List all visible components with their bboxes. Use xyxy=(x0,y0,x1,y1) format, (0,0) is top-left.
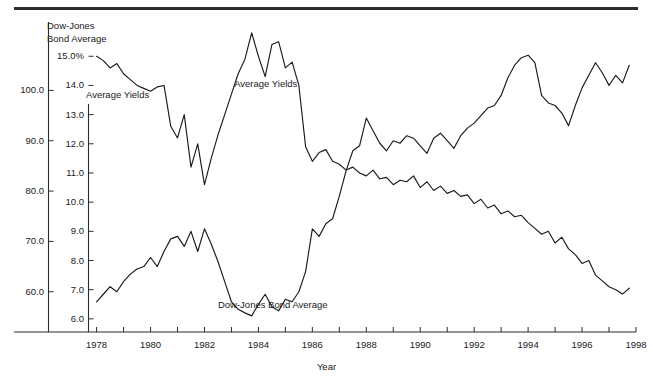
inner-y-tick-label: 9.0 xyxy=(40,225,84,237)
x-tick-label: 1998 xyxy=(616,339,653,350)
chart-annotation-average-yields: Average Yields xyxy=(234,78,297,89)
outer-y-tick-label: 70.0 xyxy=(0,235,44,247)
inner-y-tick-label: 11.0 xyxy=(40,167,84,179)
inner-y-tick-label: 12.0 xyxy=(40,138,84,150)
x-tick-label: 1980 xyxy=(131,339,171,350)
x-tick-label: 1982 xyxy=(184,339,224,350)
chart-annotation-dow-jones-bond-average: Dow-Jones Bond Average xyxy=(218,299,328,310)
outer-y-tick-label: 100.0 xyxy=(0,84,44,96)
inner-y-tick-label: 7.0 xyxy=(40,284,84,296)
series-line-average-yields xyxy=(97,33,630,294)
x-tick-label: 1992 xyxy=(454,339,494,350)
outer-y-tick-label: 60.0 xyxy=(0,286,44,298)
series-line-dow-jones-bond-average xyxy=(97,55,630,316)
x-tick-label: 1984 xyxy=(238,339,278,350)
chart-figure: Dow-Jones Bond Average Average Yields 10… xyxy=(0,0,653,382)
inner-y-tick-label: 13.0 xyxy=(40,109,84,121)
inner-y-tick-label: 14.0 xyxy=(40,79,84,91)
x-axis-title: Year xyxy=(0,361,653,372)
inner-y-tick-label: 8.0 xyxy=(40,255,84,267)
x-tick-label: 1988 xyxy=(346,339,386,350)
x-tick-label: 1986 xyxy=(292,339,332,350)
x-tick-label: 1978 xyxy=(77,339,117,350)
inner-y-tick-label: 15.0% xyxy=(40,50,84,62)
x-tick-label: 1996 xyxy=(562,339,602,350)
inner-y-tick-label: 10.0 xyxy=(40,196,84,208)
plot-canvas xyxy=(0,0,653,382)
inner-y-tick-label: 6.0 xyxy=(40,313,84,325)
x-tick-label: 1994 xyxy=(508,339,548,350)
outer-y-tick-label: 80.0 xyxy=(0,185,44,197)
x-tick-label: 1990 xyxy=(400,339,440,350)
outer-y-tick-label: 90.0 xyxy=(0,135,44,147)
